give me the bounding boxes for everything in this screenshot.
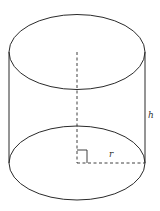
radius-label: r [109,149,114,159]
right-angle-marker [77,150,87,163]
height-label: h [148,110,154,120]
cylinder-diagram: h r [0,0,160,211]
